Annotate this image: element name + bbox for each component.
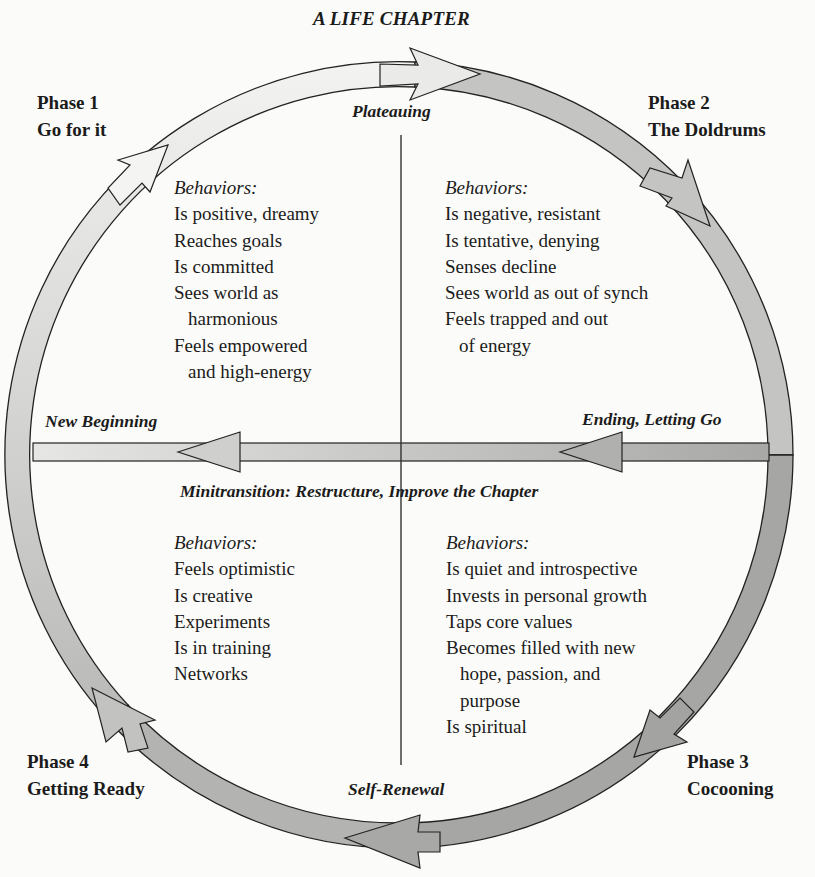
behaviors-phase-4: Behaviors: Feels optimistic Is creative … [174, 530, 295, 688]
transition-arrowhead-right-icon [560, 432, 622, 472]
stage-self-renewal: Self-Renewal [348, 779, 444, 800]
behaviors-heading: Behaviors: [174, 175, 319, 201]
phase-3-name: Cocooning [687, 775, 774, 802]
phase-3-label: Phase 3 Cocooning [687, 748, 774, 802]
behavior-item: Is spiritual [446, 714, 647, 740]
phase-1-label: Phase 1 Go for it [37, 89, 106, 143]
behaviors-phase-3: Behaviors: Is quiet and introspective In… [446, 530, 647, 740]
behaviors-phase-2: Behaviors: Is negative, resistant Is ten… [445, 175, 648, 359]
phase-1-name: Go for it [37, 116, 106, 143]
phase-2-number: Phase 2 [648, 89, 766, 116]
behavior-item: Experiments [174, 609, 295, 635]
stage-minitransition: Minitransition: Restructure, Improve the… [180, 481, 538, 502]
behavior-item: Feels optimistic [174, 556, 295, 582]
behavior-item: Becomes filled with new [446, 635, 647, 661]
behaviors-phase-1: Behaviors: Is positive, dreamy Reaches g… [174, 175, 319, 385]
behavior-item: Sees world as out of synch [445, 280, 648, 306]
behavior-item: Reaches goals [174, 228, 319, 254]
behavior-item: harmonious [174, 306, 319, 332]
behavior-item: Is creative [174, 583, 295, 609]
arrowhead-phase2-icon [640, 160, 710, 226]
behavior-item: Is quiet and introspective [446, 556, 647, 582]
behavior-item: purpose [446, 688, 647, 714]
behavior-item: Feels empowered [174, 333, 319, 359]
stage-new-beginning: New Beginning [45, 411, 157, 432]
behavior-item: of energy [445, 333, 648, 359]
behavior-item: Taps core values [446, 609, 647, 635]
behaviors-heading: Behaviors: [174, 530, 295, 556]
behaviors-heading: Behaviors: [445, 175, 648, 201]
behavior-item: hope, passion, and [446, 661, 647, 687]
behavior-item: Is in training [174, 635, 295, 661]
behavior-item: Sees world as [174, 280, 319, 306]
stage-plateauing: Plateauing [352, 101, 431, 122]
behavior-item: Is negative, resistant [445, 201, 648, 227]
arc-phase-4 [108, 705, 400, 848]
behavior-item: Is tentative, denying [445, 228, 648, 254]
phase-3-number: Phase 3 [687, 748, 774, 775]
behavior-item: Invests in personal growth [446, 583, 647, 609]
phase-1-number: Phase 1 [37, 89, 106, 116]
phase-4-label: Phase 4 Getting Ready [27, 748, 145, 802]
behavior-item: and high-energy [174, 359, 319, 385]
transition-arrowhead-left-icon [178, 432, 240, 472]
diagram-title: A LIFE CHAPTER [313, 8, 470, 30]
phase-4-name: Getting Ready [27, 775, 145, 802]
behavior-item: Feels trapped and out [445, 306, 648, 332]
behavior-item: Senses decline [445, 254, 648, 280]
behaviors-heading: Behaviors: [446, 530, 647, 556]
arrowhead-phase4-icon [92, 688, 155, 752]
behavior-item: Networks [174, 661, 295, 687]
phase-2-name: The Doldrums [648, 116, 766, 143]
phase-2-label: Phase 2 The Doldrums [648, 89, 766, 143]
behavior-item: Is positive, dreamy [174, 201, 319, 227]
stage-ending-letting-go: Ending, Letting Go [582, 409, 722, 430]
behavior-item: Is committed [174, 254, 319, 280]
phase-4-number: Phase 4 [27, 748, 145, 775]
